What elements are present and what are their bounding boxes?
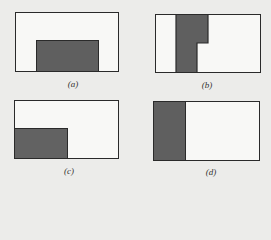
panel-b-label: (b) bbox=[202, 80, 213, 90]
panel-d-label: (d) bbox=[206, 167, 217, 177]
panel-d-shaded-region bbox=[153, 101, 186, 161]
panel-c-label: (c) bbox=[64, 166, 74, 176]
panel-c-shaded-region bbox=[14, 128, 68, 159]
